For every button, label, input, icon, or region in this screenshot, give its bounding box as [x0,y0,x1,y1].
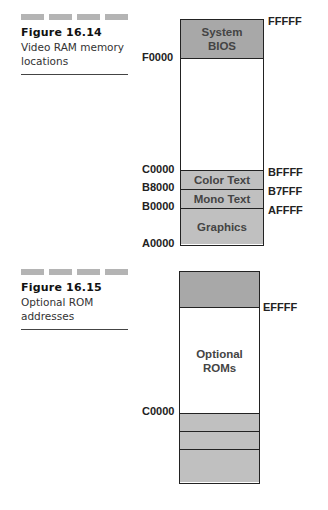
segment-top [180,272,259,307]
address-label: A0000 [142,237,174,249]
address-label: B0000 [142,200,174,212]
segment-label: Mono Text [194,192,251,206]
caption-line: addresses [21,309,131,323]
caption-line: Optional ROM [21,295,131,309]
segment-gray-1 [180,413,259,431]
segment-label: BIOS [202,39,243,53]
address-label: FFFFF [268,15,302,27]
segment-optional-roms: OptionalROMs [180,307,259,413]
address-label: C0000 [142,163,174,175]
segment-label: ROMs [196,361,243,375]
figure-number: Figure 16.14 [21,26,102,39]
address-label: B7FFF [268,185,302,197]
address-label: BFFFF [268,166,303,178]
segment-gray-2 [180,431,259,449]
video-ram-memory-map: SystemBIOS Color Text Mono Text Graphics [180,19,264,246]
caption-line: Video RAM memory [21,40,131,54]
address-label: B8000 [142,181,174,193]
segment-label: Color Text [194,173,250,187]
caption-rule [21,74,128,75]
optional-rom-memory-map: OptionalROMs [179,271,260,484]
segment-color-text: Color Text [181,170,263,189]
figure-decoration-dashes [21,14,129,20]
segment-system-bios: SystemBIOS [181,20,263,58]
segment-gray-3 [180,449,259,482]
figure-decoration-dashes [21,269,129,275]
segment-label: System [202,25,243,39]
address-label: F0000 [142,51,173,63]
segment-graphics: Graphics [181,208,263,244]
segment-label: Optional [196,347,243,361]
figure-number: Figure 16.15 [21,281,102,294]
address-label: AFFFF [268,204,303,216]
caption-rule [21,329,128,330]
figure-caption: Optional ROM addresses [21,295,131,323]
figure-caption: Video RAM memory locations [21,40,131,68]
address-label: EFFFF [263,301,297,313]
segment-label: Graphics [197,220,247,234]
segment-unused [181,58,263,170]
segment-mono-text: Mono Text [181,189,263,208]
address-label: C0000 [142,405,174,417]
caption-line: locations [21,54,131,68]
